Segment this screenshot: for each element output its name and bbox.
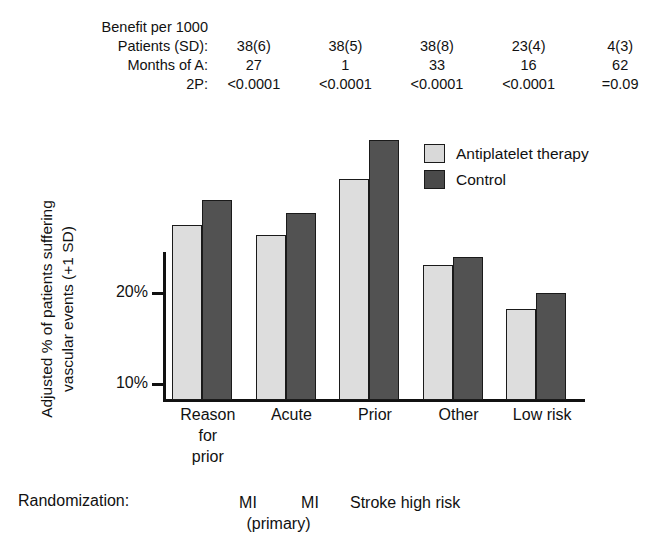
bar-antiplatelet — [172, 225, 202, 400]
x-axis-category-line: Low risk — [488, 404, 596, 425]
y-tick-20 — [152, 292, 165, 295]
plot-area: 20% 10% Adjusted % of patients suffering… — [0, 0, 666, 549]
bar-control — [453, 257, 483, 400]
randomization-mi-2: MI — [290, 492, 330, 513]
bar-antiplatelet — [339, 179, 369, 400]
y-tick-10 — [152, 383, 165, 386]
randomization-stroke: Stroke high risk — [350, 492, 460, 513]
bar-group — [172, 190, 232, 400]
bar-control — [202, 200, 232, 400]
y-tick-label-20: 20% — [78, 283, 148, 301]
x-axis-category-label: Low risk — [488, 404, 596, 425]
bar-control — [369, 140, 399, 400]
bar-group — [339, 190, 399, 400]
bar-control — [536, 293, 566, 400]
x-axis-category-line: for — [154, 425, 262, 446]
randomization-primary: (primary) — [226, 513, 331, 534]
randomization-label: Randomization: — [18, 492, 129, 510]
bar-control — [286, 213, 316, 400]
randomization-mi-1: MI — [228, 492, 268, 513]
bar-group — [506, 190, 566, 400]
bar-antiplatelet — [423, 265, 453, 400]
randomization-items: MI MI (primary) Stroke high risk — [228, 492, 648, 542]
bar-series-container — [166, 190, 584, 400]
bar-antiplatelet — [506, 309, 536, 400]
bar-group — [423, 190, 483, 400]
y-tick-label-10: 10% — [78, 374, 148, 392]
chart-figure: Benefit per 1000 Patients (SD): Months o… — [0, 0, 666, 549]
bar-group — [256, 190, 316, 400]
y-axis-label: Adjusted % of patients suffering vascula… — [36, 164, 78, 454]
y-axis-label-line1: Adjusted % of patients suffering — [36, 164, 57, 454]
x-axis-category-line: prior — [154, 446, 262, 467]
y-axis-label-line2: vascular events (+1 SD) — [57, 164, 78, 454]
x-axis-categories: ReasonforpriorAcutePriorOtherLow risk — [166, 404, 584, 474]
bar-antiplatelet — [256, 235, 286, 400]
